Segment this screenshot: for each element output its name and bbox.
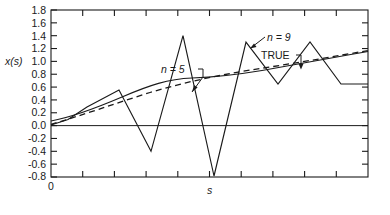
- y-tick-label: 0.4: [31, 94, 46, 106]
- chart-figure: 1.8 1.6 1.4 1.2 1.0 0.8 0.6 0.4 0.2 0.0 …: [0, 0, 390, 215]
- y-tick-label: 0.0: [31, 119, 46, 131]
- y-tick-label: -0.2: [28, 132, 46, 144]
- y-tick-label: 0.6: [31, 81, 46, 93]
- x-tick-marks-bottom: [83, 171, 337, 177]
- y-tick-labels: 1.8 1.6 1.4 1.2 1.0 0.8 0.6 0.4 0.2 0.0 …: [28, 4, 46, 182]
- y-tick-label: -0.8: [28, 170, 46, 182]
- y-tick-label: 0.8: [31, 68, 46, 80]
- chart-canvas: 1.8 1.6 1.4 1.2 1.0 0.8 0.6 0.4 0.2 0.0 …: [0, 0, 390, 215]
- plot-frame: [51, 10, 368, 177]
- series-n5: [51, 52, 368, 122]
- series-true: [51, 51, 368, 125]
- x-tick-marks-top: [83, 10, 337, 16]
- y-axis-title: x(s): [4, 55, 23, 67]
- y-tick-label: 1.0: [31, 55, 46, 67]
- y-tick-label: -0.4: [28, 145, 46, 157]
- y-tick-marks-right: [362, 23, 368, 164]
- y-tick-label: 0.2: [31, 106, 46, 118]
- annotation-n5-label: n = 5: [161, 63, 185, 75]
- y-tick-label: 1.8: [31, 4, 46, 16]
- y-tick-marks: [51, 10, 57, 177]
- annotation-true-arrowhead: [298, 64, 303, 70]
- x-origin-label: 0: [48, 180, 54, 192]
- y-tick-label: 1.2: [31, 42, 46, 54]
- annotation-true-label: TRUE: [261, 49, 290, 61]
- y-tick-label: -0.6: [28, 158, 46, 170]
- annotation-n9: n = 9: [250, 31, 291, 49]
- series-n9: [51, 36, 368, 176]
- y-tick-label: 1.6: [31, 17, 46, 29]
- annotation-n9-label: n = 9: [267, 31, 291, 43]
- y-tick-label: 1.4: [31, 30, 46, 42]
- x-axis-title: s: [207, 184, 213, 196]
